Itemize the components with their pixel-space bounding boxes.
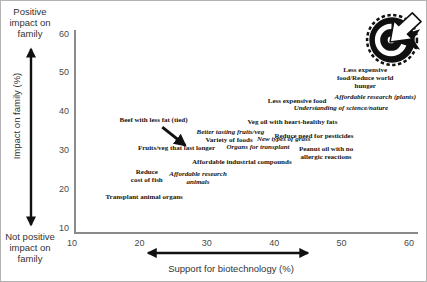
data-point-label: Organs for transplant: [227, 144, 290, 152]
y-tick-label: 10: [45, 224, 69, 233]
data-point-label: Beef with less fat (tied): [120, 117, 188, 125]
data-point-label: Veg oil with heart-healthy fats: [247, 119, 337, 127]
scatter-plot-figure: Positive impact on family Not positive i…: [0, 0, 427, 282]
data-point-label: Reduce cost of fish: [131, 169, 163, 185]
y-axis-title: Impact on family (%): [11, 41, 25, 191]
data-point-label: Affordable industrial compounds: [192, 159, 292, 167]
y-tick-label: 30: [45, 146, 69, 155]
data-point-label: Affordable research (plants): [335, 94, 417, 102]
y-axis-negative-end-label: Not positive impact on family: [4, 232, 56, 264]
x-axis-title: Support for biotechnology (%): [131, 263, 331, 274]
data-point-label: Peanut oil with no allergic reactions: [299, 146, 353, 162]
y-tick-label: 40: [45, 107, 69, 116]
x-tick-label: 40: [261, 239, 287, 248]
x-tick-label: 50: [329, 239, 355, 248]
data-point-label: Transplant animal organs: [105, 194, 182, 202]
data-point-label: Reduce need for pesticides: [274, 133, 353, 141]
data-point-label: Understanding of science/nature: [294, 105, 389, 113]
y-tick-label: 50: [45, 68, 69, 77]
x-tick-label: 60: [396, 239, 422, 248]
x-tick-label: 20: [126, 239, 152, 248]
data-point-label: Affordable research animals: [169, 171, 227, 187]
dart-target-stamp-icon: [364, 10, 422, 68]
y-tick-label: 20: [45, 185, 69, 194]
y-tick-label: 60: [45, 30, 69, 39]
y-axis-line: [74, 30, 76, 233]
data-point-label: Fruits/veg that last longer: [138, 145, 215, 153]
data-point-label: Less expensive food/Reduce world hunger: [337, 67, 394, 90]
tied-callout-arrow: [162, 127, 185, 145]
x-tick-label: 30: [194, 239, 220, 248]
x-axis-line: [74, 232, 418, 234]
x-tick-label: 10: [59, 239, 85, 248]
